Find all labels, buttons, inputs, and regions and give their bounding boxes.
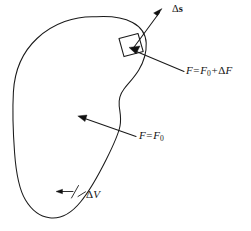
delta-v-pointer-arrowhead bbox=[56, 189, 63, 194]
delta-v-leader-dash bbox=[78, 192, 86, 197]
force-base-base: F bbox=[153, 129, 160, 141]
delta-s-arrowhead bbox=[154, 9, 162, 16]
force-base-subscript: 0 bbox=[160, 134, 164, 143]
force-base-arrowhead bbox=[78, 115, 87, 122]
force-perturbed-base: F bbox=[200, 64, 207, 76]
force-base-lhs: F bbox=[139, 129, 146, 141]
physics-diagram-figure: Δs F=F0+ΔF F=F0 ΔV bbox=[0, 0, 251, 231]
delta-v-label: ΔV bbox=[86, 189, 100, 200]
delta-v-symbol-glyph: V bbox=[93, 188, 100, 200]
delta-s-symbol-glyph: s bbox=[179, 3, 183, 14]
force-base-arrow-line bbox=[82, 118, 136, 137]
delta-s-delta-glyph: Δ bbox=[172, 3, 179, 14]
force-perturbed-subscript: 0 bbox=[207, 69, 211, 78]
force-perturbed-delta-symbol: F bbox=[225, 64, 232, 76]
delta-s-label: Δs bbox=[172, 4, 183, 15]
force-base-label: F=F0 bbox=[139, 130, 164, 141]
force-perturbed-lhs: F bbox=[186, 64, 193, 76]
diagram-canvas bbox=[0, 0, 251, 231]
force-perturbed-arrow-line bbox=[134, 51, 184, 72]
force-perturbed-label: F=F0+ΔF bbox=[186, 65, 232, 76]
